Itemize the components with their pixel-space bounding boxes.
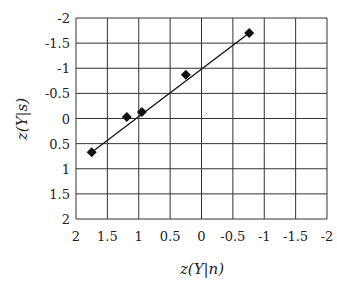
y-tick-label: 0 xyxy=(62,112,70,127)
x-tick-label: 2 xyxy=(72,229,80,244)
y-axis-ticks: -2-1.5-1-0.500.511.52 xyxy=(45,11,70,227)
x-tick-label: 1.5 xyxy=(97,229,118,244)
x-tick-label: -0.5 xyxy=(220,229,245,244)
y-tick-label: 1.5 xyxy=(49,187,70,202)
diamond-marker-icon xyxy=(87,147,97,157)
x-tick-label: -1 xyxy=(258,229,271,244)
y-tick-label: 2 xyxy=(62,212,70,227)
y-tick-label: -1 xyxy=(57,61,70,76)
grid xyxy=(76,18,327,219)
y-tick-label: 0.5 xyxy=(49,137,70,152)
y-axis-label: z(Y|s) xyxy=(13,98,31,141)
x-axis-label: z(Y|n) xyxy=(179,260,224,278)
y-tick-label: -1.5 xyxy=(45,36,70,51)
zroc-chart: -2-1.5-1-0.500.511.52 21.510.50-0.5-1-1.… xyxy=(0,0,337,284)
y-tick-label: -2 xyxy=(57,11,70,26)
y-tick-label: 1 xyxy=(62,162,70,177)
diamond-marker-icon xyxy=(244,28,254,38)
x-axis-ticks: 21.510.50-0.5-1-1.5-2 xyxy=(72,229,333,244)
y-tick-label: -0.5 xyxy=(45,86,70,101)
x-tick-label: 0 xyxy=(197,229,205,244)
x-tick-label: -1.5 xyxy=(283,229,308,244)
diamond-marker-icon xyxy=(122,112,132,122)
x-tick-label: 0.5 xyxy=(160,229,181,244)
x-tick-label: 1 xyxy=(135,229,143,244)
x-tick-label: -2 xyxy=(321,229,334,244)
